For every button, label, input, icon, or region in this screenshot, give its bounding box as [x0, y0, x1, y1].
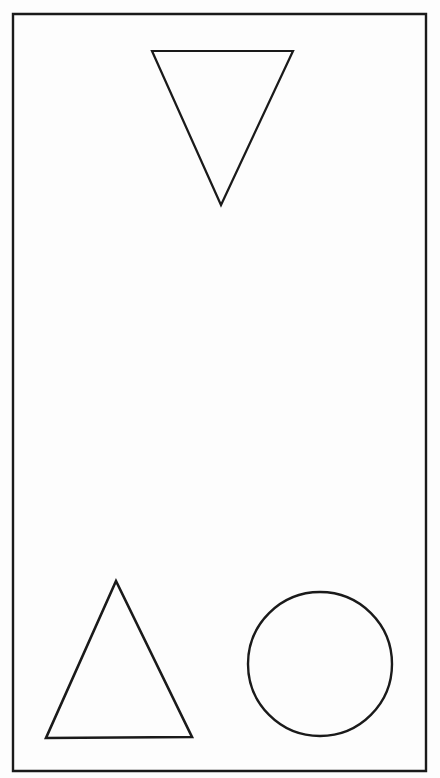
- upright-triangle: [46, 581, 192, 738]
- circle-shape: [248, 592, 392, 736]
- shapes-canvas: Geometric shapes inside a rectangular bo…: [0, 0, 440, 778]
- figure-page: Geometric shapes inside a rectangular bo…: [0, 0, 440, 778]
- rectangular-frame: [13, 14, 426, 771]
- inverted-triangle: [152, 51, 293, 205]
